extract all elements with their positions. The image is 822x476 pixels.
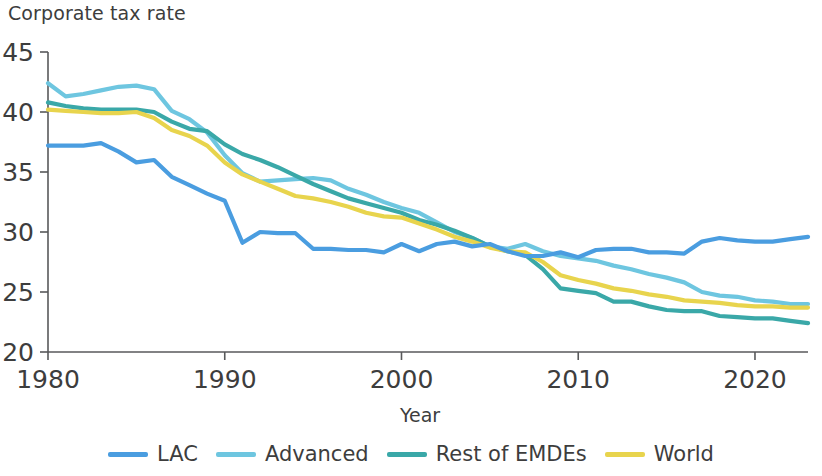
x-tick-label: 1980 — [16, 365, 80, 394]
series-line-rest-of-emdes — [48, 102, 808, 323]
legend-item-label: Advanced — [265, 444, 369, 465]
series-lines — [48, 83, 808, 323]
x-axis-ticks: 19801990200020102020 — [16, 352, 787, 394]
legend-swatch-icon — [108, 452, 148, 457]
y-tick-label: 20 — [2, 338, 34, 367]
legend-item-label: World — [654, 444, 714, 465]
legend-swatch-icon — [387, 452, 427, 457]
y-tick-label: 40 — [2, 98, 34, 127]
y-tick-label: 25 — [2, 278, 34, 307]
chart-legend: LACAdvancedRest of EMDEsWorld — [0, 444, 822, 465]
legend-swatch-icon — [216, 452, 256, 457]
y-tick-label: 35 — [2, 158, 34, 187]
x-tick-label: 2000 — [370, 365, 434, 394]
x-tick-label: 2010 — [546, 365, 610, 394]
legend-item-label: Rest of EMDEs — [436, 444, 587, 465]
chart-plot-area: 202530354045 19801990200020102020 Year — [0, 0, 822, 476]
legend-swatch-icon — [605, 452, 645, 457]
x-tick-label: 1990 — [193, 365, 257, 394]
y-tick-label: 45 — [2, 38, 34, 67]
series-line-lac — [48, 143, 808, 257]
x-axis-title: Year — [399, 404, 440, 426]
legend-item-lac[interactable]: LAC — [108, 444, 198, 465]
x-tick-label: 2020 — [723, 365, 787, 394]
y-tick-label: 30 — [2, 218, 34, 247]
chart-figure: Corporate tax rate 202530354045 19801990… — [0, 0, 822, 476]
y-axis-ticks: 202530354045 — [2, 38, 48, 367]
legend-item-advanced[interactable]: Advanced — [216, 444, 369, 465]
legend-item-rest-of-emdes[interactable]: Rest of EMDEs — [387, 444, 587, 465]
series-line-world — [48, 110, 808, 308]
legend-item-label: LAC — [157, 444, 198, 465]
legend-item-world[interactable]: World — [605, 444, 714, 465]
